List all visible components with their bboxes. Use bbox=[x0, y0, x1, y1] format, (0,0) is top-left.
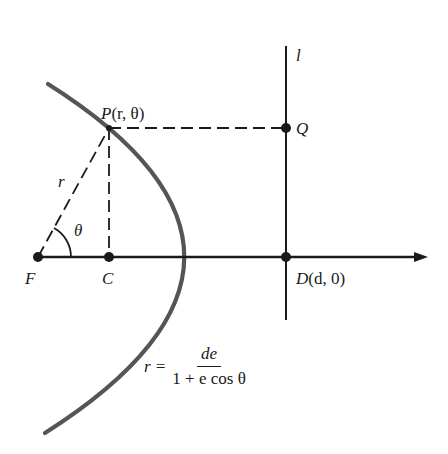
label-P-letter: P bbox=[101, 104, 111, 123]
formula-fraction: de 1 + e cos θ bbox=[172, 344, 245, 389]
label-D-letter: D bbox=[296, 269, 308, 288]
polar-conic-diagram: P(r, θ) Q l r θ F C D(d, 0) r = de 1 + e… bbox=[0, 0, 448, 454]
label-F: F bbox=[25, 270, 35, 287]
angle-theta-arc bbox=[54, 228, 71, 257]
point-Q bbox=[281, 123, 291, 133]
label-line-l: l bbox=[296, 47, 301, 64]
point-F bbox=[33, 252, 43, 262]
polar-equation: r = de 1 + e cos θ bbox=[144, 344, 246, 389]
label-r: r bbox=[58, 173, 65, 190]
point-C bbox=[104, 252, 114, 262]
label-D: D(d, 0) bbox=[296, 270, 345, 287]
axis-arrowhead-icon bbox=[414, 252, 428, 262]
label-P: P(r, θ) bbox=[101, 105, 144, 122]
point-D bbox=[281, 252, 291, 262]
formula-lhs: r = bbox=[144, 357, 166, 377]
label-theta: θ bbox=[74, 222, 82, 239]
label-D-args: (d, 0) bbox=[308, 269, 345, 288]
point-P bbox=[106, 125, 112, 131]
formula-denominator: 1 + e cos θ bbox=[172, 367, 245, 389]
label-Q: Q bbox=[296, 120, 308, 137]
label-P-args: (r, θ) bbox=[111, 104, 144, 123]
formula-numerator: de bbox=[197, 344, 221, 367]
label-C: C bbox=[102, 270, 113, 287]
